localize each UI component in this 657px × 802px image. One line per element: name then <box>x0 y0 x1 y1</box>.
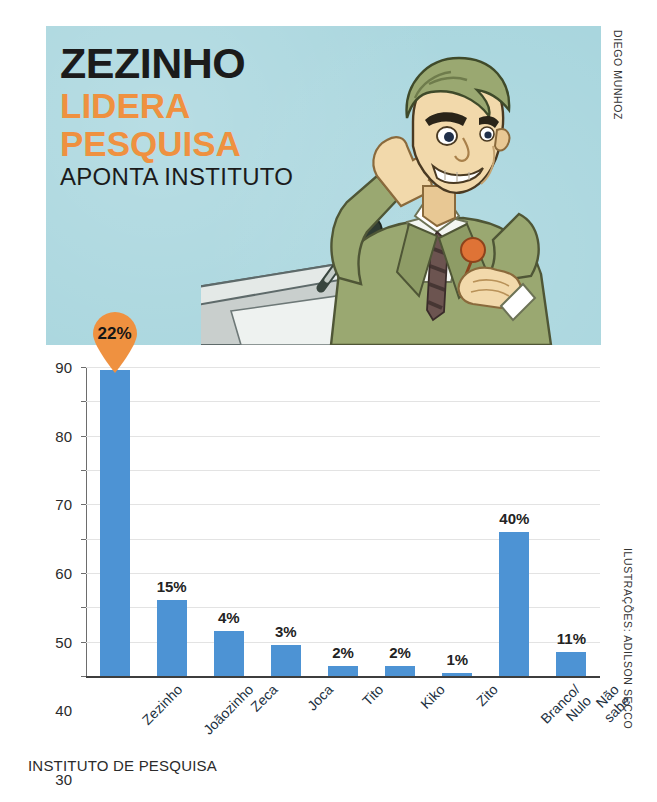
x-axis-label: Zeca <box>248 682 281 715</box>
x-axis-label: Zezinho <box>139 682 185 728</box>
headline-block: ZEZINHO LIDERA PESQUISA APONTA INSTITUTO <box>60 42 293 189</box>
politician-figure <box>331 58 551 345</box>
gridline <box>86 367 600 368</box>
source-caption: INSTITUTO DE PESQUISA <box>28 757 217 774</box>
headline-line-4: APONTA INSTITUTO <box>60 165 293 189</box>
x-axis-label: Nãosabe <box>590 682 634 726</box>
y-axis-tick-label: 40 <box>55 702 72 719</box>
x-axis-label: Joca <box>305 682 337 714</box>
x-axis-label: Joãozinho <box>200 682 256 738</box>
highlight-pin-marker: 22% <box>89 312 141 374</box>
y-axis-tick-label: 90 <box>55 359 72 376</box>
gridline <box>86 436 600 437</box>
bar-zito[interactable] <box>442 673 472 676</box>
y-axis-tick-label: 50 <box>55 633 72 650</box>
gridline <box>86 401 600 402</box>
x-axis-label: Tito <box>360 682 387 709</box>
gridline <box>86 470 600 471</box>
y-axis-tick-label: 70 <box>55 496 72 513</box>
bar-zeca[interactable] <box>214 631 244 676</box>
bar-kiko[interactable] <box>385 666 415 676</box>
bar-value-label: 40% <box>499 510 529 527</box>
bar-nosabe[interactable] <box>556 652 586 676</box>
hero-illustration-panel: ZEZINHO LIDERA PESQUISA APONTA INSTITUTO <box>46 26 601 345</box>
bar-value-label: 2% <box>332 644 354 661</box>
x-axis-label: Zito <box>474 682 502 710</box>
bar-zezinho[interactable] <box>100 370 130 676</box>
y-axis-tick-label: 60 <box>55 565 72 582</box>
plot-area: 010203040506070809015%4%3%2%2%1%40%11% <box>86 367 600 676</box>
headline-line-2: LIDERA <box>60 88 293 123</box>
y-axis-tick-label: 80 <box>55 427 72 444</box>
bar-joca[interactable] <box>271 645 301 676</box>
y-axis-tick: 70 <box>81 436 86 437</box>
bar-value-label: 4% <box>218 609 240 626</box>
illustration-credit-top: DIEGO MUNHOZ <box>612 30 624 120</box>
y-axis-tick: 80 <box>81 401 86 402</box>
x-axis-label: Branco/Nulo <box>538 682 594 738</box>
bar-value-label: 1% <box>446 651 468 668</box>
y-axis-tick: 60 <box>81 470 86 471</box>
headline-line-1: ZEZINHO <box>60 42 293 85</box>
y-axis-tick: 30 <box>81 573 86 574</box>
gridline <box>86 504 600 505</box>
bar-tito[interactable] <box>328 666 358 676</box>
x-axis-label: Kiko <box>418 682 448 712</box>
y-axis-tick: 40 <box>81 539 86 540</box>
y-axis-tick: 50 <box>81 504 86 505</box>
highlight-pin-label: 22% <box>89 324 141 344</box>
bar-value-label: 3% <box>275 623 297 640</box>
bar-joozinho[interactable] <box>157 600 187 676</box>
bar-value-label: 2% <box>389 644 411 661</box>
headline-line-3: PESQUISA <box>60 126 293 161</box>
y-axis-tick: 20 <box>81 607 86 608</box>
y-axis-tick: 0 <box>81 676 86 677</box>
y-axis-tick: 90 <box>81 367 86 368</box>
x-axis <box>86 676 600 678</box>
poll-bar-chart: 010203040506070809015%4%3%2%2%1%40%11% 2… <box>0 345 657 745</box>
bar-branconulo[interactable] <box>499 532 529 676</box>
bar-value-label: 15% <box>157 578 187 595</box>
y-axis-tick: 10 <box>81 642 86 643</box>
bar-value-label: 11% <box>557 630 586 647</box>
